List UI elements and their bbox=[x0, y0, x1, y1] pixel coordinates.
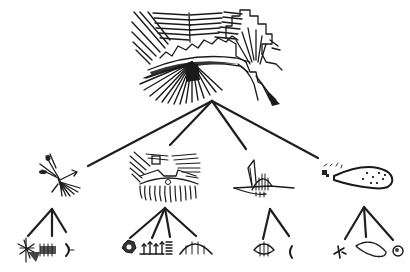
diagram-canvas bbox=[0, 0, 410, 272]
round-spotted-figure bbox=[393, 246, 403, 256]
dome-figure bbox=[180, 242, 212, 254]
rosette-figure bbox=[122, 240, 136, 253]
edges-root bbox=[88, 101, 318, 166]
plant-row-figure bbox=[140, 242, 164, 254]
comb-insect-figure bbox=[40, 244, 56, 256]
radiating-trapezoid-figure bbox=[130, 152, 200, 202]
spotted-gourd-figure bbox=[322, 163, 392, 188]
bracket-figure bbox=[66, 244, 74, 256]
hatched-bird-figure bbox=[234, 160, 294, 197]
loop-figure bbox=[356, 242, 386, 256]
small-hook-figure bbox=[290, 246, 292, 258]
starburst-figure bbox=[18, 238, 40, 262]
small-glyph-figure bbox=[334, 246, 346, 258]
root-figure bbox=[132, 10, 282, 106]
coil-figure bbox=[166, 242, 172, 254]
edges-level2 bbox=[28, 207, 393, 240]
hatched-lens-figure bbox=[254, 242, 274, 256]
tree-figure bbox=[39, 154, 80, 196]
